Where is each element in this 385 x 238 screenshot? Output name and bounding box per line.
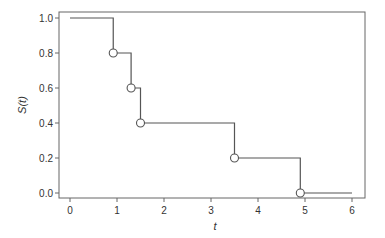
event-marker-circle: [296, 189, 304, 197]
survival-chart: 0123456 0.00.20.40.60.81.0 t S(t): [0, 0, 385, 238]
y-tick-label: 0.4: [39, 118, 53, 129]
y-axis-label: S(t): [16, 96, 28, 114]
y-tick-label: 0.6: [39, 83, 53, 94]
x-tick-label: 3: [208, 205, 214, 216]
event-marker-circle: [127, 84, 135, 92]
y-tick-label: 0.0: [39, 188, 53, 199]
event-marker-circle: [231, 154, 239, 162]
x-tick-label: 0: [67, 205, 73, 216]
plot-frame: [59, 12, 365, 198]
x-tick-label: 4: [255, 205, 261, 216]
event-marker-circle: [137, 119, 145, 127]
y-tick-label: 0.2: [39, 153, 53, 164]
event-marker-circle: [109, 49, 117, 57]
x-axis-label: t: [213, 220, 217, 232]
x-tick-label: 1: [114, 205, 120, 216]
x-tick-label: 2: [161, 205, 167, 216]
x-axis-ticks: 0123456: [67, 198, 355, 216]
y-tick-label: 0.8: [39, 48, 53, 59]
x-tick-label: 6: [349, 205, 355, 216]
x-tick-label: 5: [302, 205, 308, 216]
y-axis-ticks: 0.00.20.40.60.81.0: [39, 13, 59, 199]
survival-step-curve: [70, 18, 352, 193]
y-tick-label: 1.0: [39, 13, 53, 24]
